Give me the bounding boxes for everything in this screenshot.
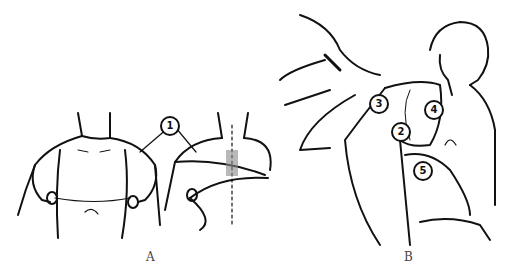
callout-2: 2 [391,122,411,142]
callout-5: 5 [413,161,433,181]
panel-label-b: B [404,250,413,264]
callout-1: 1 [160,116,180,136]
callout-3: 3 [369,94,389,114]
callout-1-leader-right [176,128,196,152]
panel-a-front-torso [18,113,160,238]
panel-a-back-torso [165,113,271,230]
panel-label-a: A [146,250,155,264]
bandage-illustration [0,0,531,275]
panel-b-figure [280,15,495,245]
callout-4: 4 [424,100,444,120]
